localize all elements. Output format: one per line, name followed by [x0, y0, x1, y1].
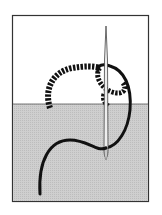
- stitch-illustration: [0, 0, 162, 215]
